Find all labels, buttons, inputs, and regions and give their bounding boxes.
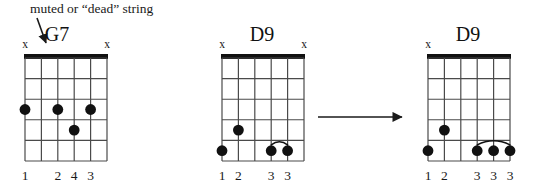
fingering-number: 3 <box>485 169 503 183</box>
finger-dot <box>472 145 483 156</box>
finger-dot <box>423 145 434 156</box>
finger-dot <box>439 125 450 136</box>
fingering-number: 3 <box>468 169 486 183</box>
fingering-number: 3 <box>501 169 519 183</box>
chord-diagram-figure: muted or “dead” string G7xx1243D9xx1233D… <box>0 0 533 193</box>
mute-marker: x <box>420 39 436 51</box>
fingering-number: 2 <box>435 169 453 183</box>
finger-dot <box>505 145 516 156</box>
fingering-number: 1 <box>419 169 437 183</box>
finger-dot <box>488 145 499 156</box>
chord-grid-d9-after <box>0 0 533 193</box>
